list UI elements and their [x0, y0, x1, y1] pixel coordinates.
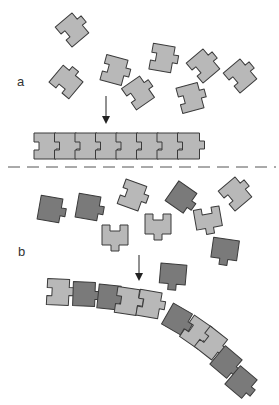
- dark-subunit: [210, 237, 239, 266]
- light-subunit: [193, 206, 223, 236]
- dark-subunit: [159, 263, 187, 291]
- light-subunit: [117, 179, 151, 213]
- dark-chain-subunit: [73, 282, 101, 307]
- panel-a-label: a: [17, 74, 25, 89]
- subunit-piece: [223, 56, 260, 93]
- panel-a-scattered-subunits: [49, 10, 261, 114]
- dark-subunit: [37, 195, 68, 223]
- subunit-piece: [149, 43, 180, 73]
- light-subunit: [102, 225, 128, 251]
- dark-subunit: [75, 193, 106, 221]
- subunit-piece: [122, 73, 159, 110]
- subunit-piece: [49, 61, 86, 98]
- light-subunit: [218, 174, 255, 211]
- light-subunit: [145, 214, 171, 240]
- panel-b-scattered-subunits: [37, 174, 256, 291]
- panel-a-linear-chain: [34, 133, 205, 159]
- subunit-piece: [186, 46, 223, 83]
- light-chain-subunit: [46, 278, 74, 305]
- panel-a-arrow-icon: [102, 96, 110, 124]
- subunit-piece: [55, 10, 92, 47]
- diagram-canvas: a b: [0, 0, 279, 405]
- panel-b-arrow-icon: [135, 255, 143, 281]
- subunit-piece: [176, 81, 209, 113]
- panel-b-label: b: [18, 244, 25, 259]
- subunit-piece: [100, 55, 133, 87]
- panel-b-curved-chain: [46, 278, 261, 401]
